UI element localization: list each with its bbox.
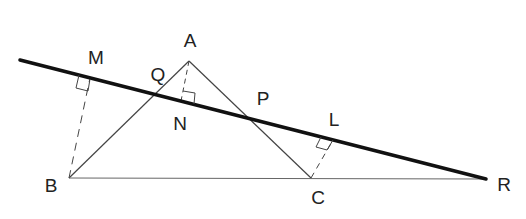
- label-p: P: [257, 88, 270, 109]
- label-n: N: [173, 113, 187, 134]
- segment-br: [69, 178, 486, 179]
- label-l: L: [329, 109, 340, 130]
- label-r: R: [497, 174, 511, 195]
- label-c: C: [311, 187, 325, 208]
- perpendicular-bm: [69, 78, 90, 178]
- label-b: B: [45, 175, 58, 196]
- label-m: M: [88, 47, 104, 68]
- label-q: Q: [151, 64, 166, 85]
- transversal-line: [20, 60, 486, 179]
- geometry-diagram: A M Q N P L B C R: [0, 0, 526, 219]
- label-a: A: [184, 30, 197, 51]
- diagram-svg: A M Q N P L B C R: [0, 0, 526, 219]
